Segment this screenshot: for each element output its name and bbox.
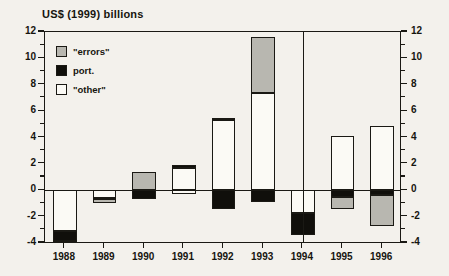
y-tick-left <box>38 162 44 163</box>
y-tick-right <box>401 30 407 31</box>
y-axis-label-left: -2 <box>6 210 36 221</box>
x-axis-label: 1996 <box>361 251 401 262</box>
bar-segment <box>172 168 196 190</box>
y-tick-right <box>401 136 407 137</box>
y-axis-label-right: 12 <box>411 25 422 36</box>
x-tick <box>182 242 183 248</box>
bar-segment <box>172 190 196 193</box>
x-axis-label: 1995 <box>322 251 362 262</box>
bar-segment <box>370 195 394 226</box>
bar-segment <box>93 190 117 197</box>
x-tick <box>143 242 144 248</box>
y-tick-left <box>40 123 44 124</box>
y-tick-right <box>401 83 407 84</box>
y-tick-right <box>401 44 405 45</box>
bar-segment <box>331 136 355 190</box>
bar-segment <box>172 165 196 168</box>
y-tick-left <box>38 215 44 216</box>
x-axis-label: 1989 <box>84 251 124 262</box>
chart-legend: "errors"port."other" <box>56 44 109 101</box>
y-tick-left <box>40 96 44 97</box>
x-tick <box>63 242 64 248</box>
y-axis-label-left: -4 <box>6 236 36 247</box>
legend-swatch-icon <box>56 65 67 76</box>
y-axis-label-left: 2 <box>6 157 36 168</box>
y-axis-label-left: 12 <box>6 25 36 36</box>
x-axis-label: 1992 <box>203 251 243 262</box>
y-tick-left <box>40 228 44 229</box>
y-axis-label-right: 0 <box>411 183 417 194</box>
y-tick-left <box>38 110 44 111</box>
y-tick-right <box>401 70 405 71</box>
y-tick-right <box>401 241 407 242</box>
bar-segment <box>132 172 156 190</box>
y-axis-label-left: 4 <box>6 131 36 142</box>
legend-swatch-icon <box>56 84 67 95</box>
legend-item: "errors" <box>56 44 109 59</box>
y-tick-left <box>40 175 44 176</box>
bar-segment <box>251 93 275 191</box>
chart-title: US$ (1999) billions <box>42 8 144 20</box>
y-tick-right <box>401 149 405 150</box>
y-tick-left <box>40 149 44 150</box>
bar-segment <box>212 118 236 120</box>
y-tick-left <box>40 70 44 71</box>
bar-segment <box>212 120 236 191</box>
y-axis-label-right: -4 <box>411 236 420 247</box>
y-axis-label-right: 4 <box>411 131 417 142</box>
x-axis-label: 1994 <box>282 251 322 262</box>
x-axis-label: 1993 <box>242 251 282 262</box>
y-axis-label-left: 0 <box>6 183 36 194</box>
legend-swatch-icon <box>56 46 67 57</box>
y-tick-left <box>38 30 44 31</box>
x-axis-label: 1988 <box>44 251 84 262</box>
bar-segment <box>370 126 394 190</box>
y-tick-right <box>401 202 405 203</box>
y-tick-right <box>401 189 407 190</box>
y-tick-right <box>401 162 407 163</box>
x-tick <box>301 242 302 248</box>
y-axis-label-right: 10 <box>411 51 422 62</box>
y-tick-left <box>38 83 44 84</box>
y-axis-label-right: 8 <box>411 78 417 89</box>
x-axis-label: 1991 <box>163 251 203 262</box>
legend-item: "other" <box>56 82 109 97</box>
y-tick-left <box>38 57 44 58</box>
y-tick-left <box>40 44 44 45</box>
legend-item: port. <box>56 63 109 78</box>
x-axis-label: 1990 <box>123 251 163 262</box>
y-tick-right <box>401 110 407 111</box>
y-tick-left <box>38 136 44 137</box>
y-tick-right <box>401 228 405 229</box>
divider-line-1994 <box>303 32 304 242</box>
y-axis-label-right: -2 <box>411 210 420 221</box>
bar-segment <box>251 190 275 202</box>
legend-label: port. <box>73 65 94 76</box>
x-tick <box>341 242 342 248</box>
x-tick <box>381 242 382 248</box>
bar-segment <box>53 190 77 231</box>
bar-segment <box>132 190 156 199</box>
chart-root: US$ (1999) billions -4-4-2-2002244668810… <box>0 0 449 276</box>
bar-segment <box>251 37 275 92</box>
bar-segment <box>212 190 236 208</box>
y-tick-right <box>401 57 407 58</box>
y-tick-left <box>40 202 44 203</box>
y-tick-left <box>38 189 44 190</box>
y-axis-label-right: 6 <box>411 104 417 115</box>
y-tick-right <box>401 96 405 97</box>
y-tick-right <box>401 123 405 124</box>
y-axis-label-left: 10 <box>6 51 36 62</box>
y-axis-label-left: 6 <box>6 104 36 115</box>
bar-segment <box>331 190 355 197</box>
legend-label: "other" <box>73 84 106 95</box>
x-tick <box>262 242 263 248</box>
bar-segment <box>331 197 355 210</box>
y-tick-right <box>401 215 407 216</box>
bar-segment <box>53 231 77 241</box>
y-tick-left <box>38 241 44 242</box>
x-tick <box>103 242 104 248</box>
y-axis-label-left: 8 <box>6 78 36 89</box>
x-tick <box>222 242 223 248</box>
bar-segment <box>93 199 117 203</box>
